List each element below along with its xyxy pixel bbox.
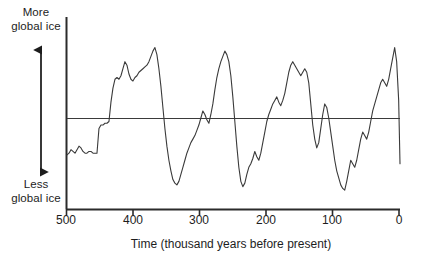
- x-tick-label-400: 400: [113, 213, 153, 227]
- x-tick-label-300: 300: [179, 213, 219, 227]
- x-tick-label-0: 0: [379, 213, 419, 227]
- x-axis-title: Time (thousand years before present): [61, 237, 401, 251]
- chart-container: More global ice Less global ice 500 400: [0, 0, 422, 266]
- x-tick-label-200: 200: [246, 213, 286, 227]
- x-tick-label-100: 100: [312, 213, 352, 227]
- x-tick-label-500: 500: [46, 213, 86, 227]
